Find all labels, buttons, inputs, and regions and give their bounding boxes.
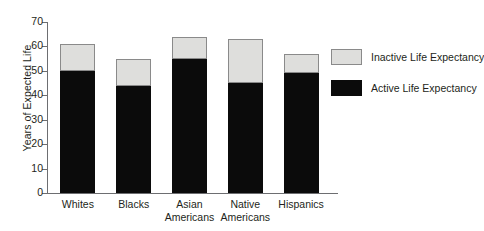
bar-segment-inactive bbox=[172, 37, 207, 59]
legend-label: Inactive Life Expectancy bbox=[371, 51, 484, 63]
bar-stack bbox=[228, 39, 263, 193]
x-category-label: Whites bbox=[46, 198, 109, 211]
y-tick-label: 40 bbox=[31, 88, 43, 100]
bar-segment-inactive bbox=[228, 39, 263, 83]
y-tick-label: 30 bbox=[31, 113, 43, 125]
bar-stack bbox=[60, 44, 95, 193]
bar-stack bbox=[172, 37, 207, 193]
bar-segment-inactive bbox=[60, 44, 95, 71]
legend-label: Active Life Expectancy bbox=[371, 82, 477, 94]
bar-segment-active bbox=[172, 59, 207, 193]
x-category-label: Hispanics bbox=[270, 198, 333, 211]
legend-item: Active Life Expectancy bbox=[331, 77, 484, 98]
bar-segment-active bbox=[284, 73, 319, 193]
chart-legend: Inactive Life ExpectancyActive Life Expe… bbox=[331, 46, 484, 108]
bar-segment-active bbox=[116, 86, 151, 193]
bar-stack bbox=[116, 59, 151, 193]
y-tick-label: 60 bbox=[31, 39, 43, 51]
x-axis-line bbox=[47, 193, 338, 194]
y-tick-label: 10 bbox=[31, 162, 43, 174]
x-category-label: Native Americans bbox=[214, 198, 277, 223]
legend-swatch-active bbox=[331, 80, 362, 96]
legend-item: Inactive Life Expectancy bbox=[331, 46, 484, 67]
bar-stack bbox=[284, 54, 319, 193]
bar-segment-active bbox=[60, 71, 95, 193]
y-tick-label: 70 bbox=[31, 15, 43, 27]
y-tick-label: 50 bbox=[31, 64, 43, 76]
bar-segment-inactive bbox=[116, 59, 151, 86]
y-tick-label: 0 bbox=[37, 186, 43, 198]
bar-segment-active bbox=[228, 83, 263, 193]
bar-segment-inactive bbox=[284, 54, 319, 74]
plot-area: 010203040506070 WhitesBlacksAsian Americ… bbox=[47, 22, 338, 193]
chart-figure: Years of Expected Life 010203040506070 W… bbox=[0, 0, 484, 231]
x-category-label: Asian Americans bbox=[158, 198, 221, 223]
legend-swatch-inactive bbox=[331, 49, 362, 65]
y-tick-label: 20 bbox=[31, 137, 43, 149]
x-category-label: Blacks bbox=[102, 198, 165, 211]
y-axis-line bbox=[47, 22, 48, 193]
